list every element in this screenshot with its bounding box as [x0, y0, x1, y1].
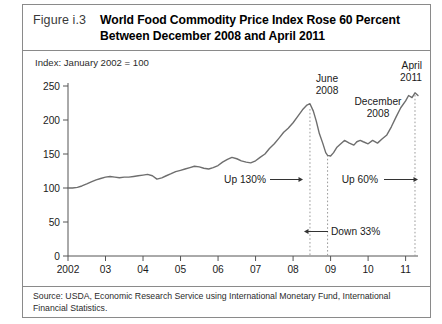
figure-container: Figure i.3 World Food Commodity Price In…	[22, 4, 431, 318]
chart-annotations: June2008December2008April2011Up 130%Up 6…	[224, 60, 422, 237]
footer-divider	[23, 286, 430, 287]
event-label-april-2011: 2011	[400, 72, 422, 83]
y-tick-label: 0	[54, 251, 60, 262]
x-tick-label: 2002	[57, 264, 80, 275]
annotation-arrow-up-130	[270, 177, 303, 182]
y-tick-label: 100	[43, 183, 60, 194]
x-axis: 2002030405060708091011	[57, 256, 418, 275]
y-tick-label: 250	[43, 81, 60, 92]
chart-plot-area: 050100150200250 2002030405060708091011 J…	[23, 5, 432, 319]
annotation-up-60: Up 60%	[342, 174, 378, 185]
y-tick-label: 50	[49, 217, 61, 228]
x-tick-label: 07	[250, 264, 262, 275]
annotation-arrow-up-60	[384, 177, 418, 182]
x-tick-label: 03	[100, 264, 112, 275]
event-label-december-2008: 2008	[367, 108, 390, 119]
y-tick-label: 200	[43, 115, 60, 126]
x-tick-label: 09	[325, 264, 337, 275]
x-tick-label: 06	[212, 264, 224, 275]
line-chart-svg: 050100150200250 2002030405060708091011 J…	[23, 5, 432, 319]
event-label-april-2011: April	[402, 60, 422, 71]
y-axis: 050100150200250	[43, 81, 68, 262]
annotation-down-33: Down 33%	[331, 226, 380, 237]
x-tick-label: 11	[400, 264, 411, 275]
x-tick-label: 04	[137, 264, 149, 275]
event-label-june-2008: 2008	[316, 85, 339, 96]
x-tick-label: 10	[362, 264, 374, 275]
source-note: Source: USDA, Economic Research Service …	[33, 291, 425, 314]
event-label-december-2008: December	[355, 96, 403, 107]
y-tick-label: 150	[43, 149, 60, 160]
annotation-up-130: Up 130%	[224, 174, 266, 185]
x-tick-label: 05	[175, 264, 187, 275]
annotation-arrow-down-33	[304, 229, 328, 234]
x-tick-label: 08	[287, 264, 299, 275]
event-label-june-2008: June	[316, 73, 338, 84]
